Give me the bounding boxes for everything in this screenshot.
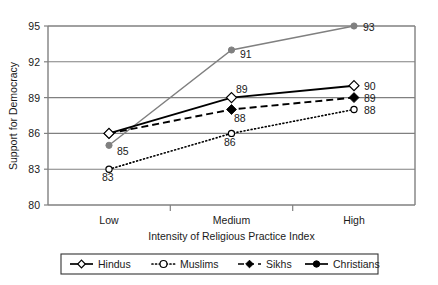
x-axis-ticks (170, 205, 292, 211)
filled-circle-icon (313, 261, 319, 267)
x-tick-label-high: High (343, 214, 365, 226)
data-label-high-sikhs: 89 (364, 92, 376, 104)
data-label-high-muslims: 88 (364, 104, 376, 116)
data-label-medium-muslims: 86 (224, 136, 236, 148)
legend: Hindus Muslims Sikhs Christians (61, 254, 380, 274)
legend-label-sikhs: Sikhs (266, 258, 292, 270)
x-tick-label-medium: Medium (213, 214, 251, 226)
data-label-low-muslims: 83 (102, 171, 114, 183)
x-axis-tick-labels: Low Medium High (99, 214, 365, 226)
legend-label-hindus: Hindus (98, 258, 131, 270)
data-label-high-christians: 93 (363, 21, 375, 33)
x-tick-label-low: Low (99, 214, 119, 226)
point-christians-high (351, 23, 357, 29)
point-hindus-high (349, 81, 359, 91)
line-chart: 95 92 89 86 83 80 Support for Democracy … (0, 0, 438, 285)
point-hindus-low (104, 128, 114, 138)
data-label-medium-christians: 91 (240, 48, 252, 60)
point-christians-medium (228, 47, 234, 53)
x-axis-title: Intensity of Religious Practice Index (148, 230, 315, 242)
data-label-medium-sikhs: 88 (234, 112, 246, 124)
chart-container: 95 92 89 86 83 80 Support for Democracy … (0, 0, 438, 285)
data-label-low-christians: 85 (117, 145, 129, 157)
y-tick-label-89: 89 (28, 92, 40, 104)
y-tick-label-95: 95 (28, 20, 40, 32)
point-hindus-medium (227, 93, 237, 103)
point-sikhs-high (349, 93, 359, 103)
series-christians-line (109, 26, 354, 145)
data-label-medium-hindus: 89 (236, 83, 248, 95)
y-tick-label-92: 92 (28, 56, 40, 68)
y-tick-label-80: 80 (28, 199, 40, 211)
legend-label-muslims: Muslims (180, 258, 219, 270)
point-muslims-high (351, 106, 357, 112)
series-christians (106, 23, 357, 148)
y-tick-label-86: 86 (28, 127, 40, 139)
legend-label-christians: Christians (333, 258, 380, 270)
point-christians-low (106, 142, 112, 148)
open-circle-icon (160, 261, 167, 268)
gridlines (48, 62, 415, 169)
data-label-high-hindus: 90 (364, 80, 376, 92)
y-axis-tick-labels: 95 92 89 86 83 80 (28, 20, 40, 211)
y-tick-label-83: 83 (28, 163, 40, 175)
y-axis-title: Support for Democracy (7, 61, 19, 170)
